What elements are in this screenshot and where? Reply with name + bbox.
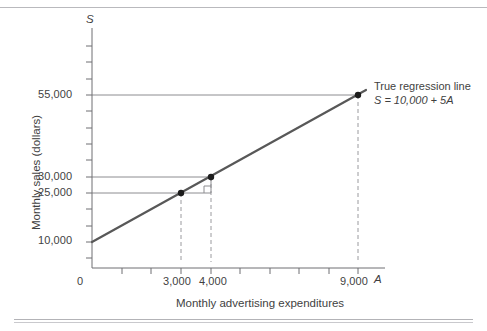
x-tick-label-3000: 3,000 — [163, 275, 191, 287]
x-axis-ticks — [122, 268, 358, 274]
y-axis-ticks — [86, 46, 92, 258]
chart-canvas — [0, 0, 487, 331]
bottom-rule-lower — [14, 322, 473, 323]
axes — [86, 28, 385, 274]
regression-line — [92, 90, 366, 242]
callout-line-1: True regression line — [374, 79, 471, 93]
data-point-4000 — [208, 174, 214, 180]
x-tick-label-0: 0 — [77, 275, 83, 287]
y-tick-label-55000: 55,000 — [38, 88, 72, 100]
y-axis-title: Monthly sales (dollars) — [30, 115, 42, 230]
reference-lines — [92, 95, 358, 193]
data-point-9000 — [355, 92, 361, 98]
bottom-rule-upper — [14, 319, 473, 320]
regression-line-callout: True regression line S = 10,000 + 5A — [374, 79, 471, 107]
y-tick-label-25000: 25,000 — [38, 186, 72, 198]
x-axis-symbol: A — [374, 273, 382, 285]
x-axis-title: Monthly advertising expenditures — [176, 297, 344, 309]
data-point-3000 — [178, 190, 184, 196]
x-tick-label-9000: 9,000 — [340, 275, 368, 287]
y-tick-label-10000: 10,000 — [38, 234, 72, 246]
y-tick-label-30000: 30,000 — [38, 170, 72, 182]
figure-container: S A 55,000 30,000 25,000 10,000 0 3,000 … — [0, 0, 487, 331]
y-axis-symbol: S — [86, 13, 94, 25]
callout-line-2: S = 10,000 + 5A — [374, 93, 471, 107]
x-tick-label-4000: 4,000 — [199, 275, 227, 287]
